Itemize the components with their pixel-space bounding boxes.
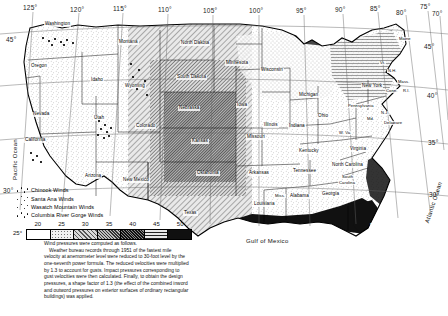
state-label-michigan: Michigan	[298, 93, 319, 98]
longitude-label: 85°	[370, 5, 380, 12]
state-label-missouri: Missouri	[246, 135, 266, 140]
wind-dots-icon	[16, 211, 31, 219]
wind-legend-row: Columbia River Gorge Winds	[16, 211, 136, 219]
scale-tick: 40	[129, 221, 136, 227]
ocean-label-pacific: Pacific Ocean	[12, 139, 18, 180]
state-label-delaware: Delaware	[383, 121, 403, 125]
state-label-tennessee: Tennessee	[292, 169, 317, 174]
scale-swatch-25	[51, 230, 75, 239]
scale-swatch-20	[27, 230, 51, 239]
wind-dots-icon	[16, 186, 31, 194]
state-label-kentucky: Kentucky	[298, 149, 320, 154]
scale-tick: 45	[153, 221, 160, 227]
longitude-label: 95°	[296, 7, 306, 14]
scale-swatch-45	[145, 230, 169, 239]
longitude-label: 100°	[249, 7, 263, 14]
longitude-label: 80°	[396, 9, 406, 16]
state-label-nevada: Nevada	[32, 112, 50, 117]
state-label-georgia: Georgia	[321, 192, 340, 197]
wind-legend-row: Chinook Winds	[16, 186, 136, 194]
wind-legend-row: Wasatch Mountain Winds	[16, 203, 136, 211]
state-label-arkansas: Arkansas	[248, 171, 270, 176]
longitude-label: 105°	[203, 7, 217, 14]
scale-tick: 35	[106, 221, 113, 227]
wind-dots-icon	[16, 203, 31, 211]
state-label-iowa: Iowa	[236, 103, 248, 108]
state-label-new-jersey: N.J.	[380, 111, 390, 115]
ocean-label-gulf: Gulf of Mexico	[246, 238, 289, 244]
state-label-new-hampshire: N.H.	[387, 69, 398, 73]
scale-swatch-30	[74, 230, 98, 239]
state-label-arizona: Arizona	[84, 174, 102, 179]
wind-legend-row: Santa Ana Winds	[16, 194, 136, 202]
state-label-massachusetts: Mass.	[397, 80, 410, 84]
state-label-illinois: Illinois	[263, 123, 279, 128]
state-label-alabama: Alabama	[289, 194, 310, 199]
state-label-north-dakota: North Dakota	[180, 41, 210, 46]
state-label-washington: Washington	[44, 22, 71, 27]
state-label-connecticut: Conn.	[385, 89, 398, 93]
state-label-maine: Maine	[398, 37, 412, 41]
state-label-maryland: Md.	[366, 117, 375, 121]
longitude-label: 110°	[158, 6, 172, 13]
state-label-colorado: Colorado	[135, 124, 156, 129]
scale-swatch-50	[168, 230, 191, 239]
state-label-texas: Texas	[183, 211, 198, 216]
scale-tick: 25	[58, 221, 65, 227]
longitude-label: 75°	[420, 3, 430, 10]
state-label-mississippi: Miss.	[274, 194, 286, 198]
wind-legend-label: Columbia River Gorge Winds	[31, 212, 103, 218]
wind-legend-label: Santa Ana Winds	[31, 196, 74, 202]
latitude-label-25: 25°	[13, 230, 22, 236]
state-label-louisiana: Louisiana	[253, 202, 276, 207]
state-label-pennsylvania: Pennsylvania	[347, 104, 375, 108]
latitude-label-right: 35°	[428, 139, 438, 146]
longitude-label: 120°	[70, 6, 84, 13]
state-label-idaho: Idaho	[90, 78, 104, 83]
state-label-west-virginia: W. Va.	[338, 131, 352, 135]
wind-dots-icon	[16, 195, 31, 203]
state-label-oklahoma: Oklahoma	[196, 171, 220, 176]
latitude-label-right: 45°	[424, 43, 434, 50]
caption-lead: Wind pressures were computed as follows.	[44, 241, 189, 248]
scale-swatch-40	[121, 230, 145, 239]
wind-marker-cluster-chinook	[126, 60, 156, 100]
state-label-indiana: Indiana	[288, 124, 306, 129]
latitude-label-left: 30°	[3, 187, 13, 194]
wind-marker-cluster-columbia	[40, 36, 80, 48]
state-label-south-dakota: South Dakota	[176, 75, 207, 80]
state-label-vermont: Vt.	[379, 61, 386, 65]
state-label-south-carolina-line1: South	[341, 175, 354, 179]
state-label-wisconsin: Wisconsin	[260, 68, 284, 73]
longitude-label: 125°	[23, 4, 37, 11]
longitude-label: 70°	[432, 10, 442, 17]
latitude-label-left: 45°	[6, 36, 16, 43]
scale-swatch-35	[98, 230, 122, 239]
scale-tick: 20	[34, 221, 41, 227]
wind-marker-cluster-wasatch	[94, 118, 120, 140]
longitude-label: 115°	[113, 5, 127, 12]
state-label-north-carolina: North Carolina	[331, 163, 364, 168]
state-label-montana: Montana	[118, 40, 139, 45]
state-label-florida: Florida	[369, 224, 386, 229]
state-label-rhode-island: R.I.	[402, 89, 411, 93]
latitude-label-right: 40°	[427, 92, 437, 99]
pressure-scale-bar	[26, 229, 192, 240]
wind-type-legend: Chinook Winds Santa Ana Winds Wasatch Mo…	[16, 186, 136, 220]
wind-pressure-map: 125° 120° 115° 110° 105° 100° 95° 90° 85…	[0, 0, 448, 316]
scale-tick: 50	[177, 221, 184, 227]
state-label-new-york: New York	[361, 84, 383, 89]
wind-legend-label: Chinook Winds	[31, 187, 69, 193]
state-label-south-carolina-line2: Carolina	[338, 181, 356, 185]
caption-block: Wind pressures were computed as follows.…	[44, 241, 189, 301]
state-label-nebraska: Nebraska	[178, 106, 200, 111]
scale-legend-ticks: 20 25 30 35 40 45 50	[26, 221, 192, 229]
wind-marker-cluster-santa-ana	[28, 150, 48, 166]
state-label-new-mexico: New Mexico	[122, 178, 150, 183]
state-label-kansas: Kansas	[191, 139, 209, 144]
state-label-california: California	[24, 138, 46, 143]
state-label-ohio: Ohio	[317, 114, 329, 119]
longitude-label: 90°	[335, 6, 345, 13]
scale-tick: 30	[82, 221, 89, 227]
wind-legend-label: Wasatch Mountain Winds	[31, 204, 94, 210]
